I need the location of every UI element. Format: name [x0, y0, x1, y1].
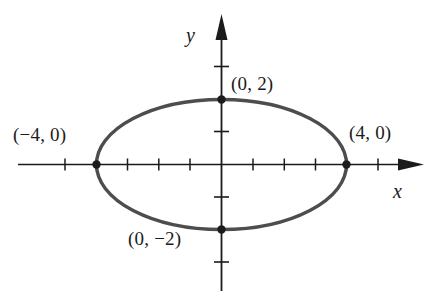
label-left-vertex: (−4, 0) — [13, 124, 66, 146]
label-right-vertex: (4, 0) — [349, 122, 391, 144]
label-top-vertex: (0, 2) — [231, 73, 273, 95]
arrow-right-icon — [398, 159, 424, 171]
vertex-point-left — [92, 160, 100, 168]
arrow-up-icon — [216, 14, 228, 40]
vertex-point-right — [342, 160, 350, 168]
vertex-point-top — [217, 95, 225, 103]
ellipse-figure: (−4, 0) (4, 0) (0, 2) (0, −2) y x — [0, 0, 437, 293]
x-axis-label: x — [393, 180, 402, 203]
graph-canvas — [0, 0, 437, 293]
label-bottom-vertex: (0, −2) — [128, 228, 181, 250]
y-axis-label: y — [186, 24, 195, 47]
vertex-point-bottom — [217, 225, 225, 233]
